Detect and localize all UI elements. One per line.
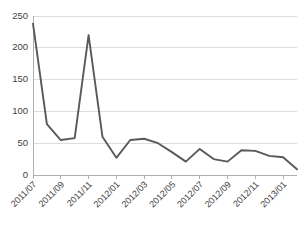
y-axis-tick-label: 150 — [12, 73, 28, 84]
y-axis-tick-label: 0 — [23, 169, 28, 180]
line-chart: 0501001502002502011/072011/092011/112012… — [0, 0, 305, 225]
data-series-line — [33, 24, 297, 170]
x-axis-tick-label: 2012/05 — [147, 179, 177, 209]
y-axis-tick-label: 200 — [12, 41, 28, 52]
x-axis-tick-label: 2012/11 — [231, 179, 261, 209]
x-axis-tick-label: 2012/07 — [175, 179, 205, 209]
x-axis-tick-label: 2011/11 — [65, 179, 94, 208]
x-axis-tick-label: 2012/09 — [203, 179, 233, 209]
y-axis-tick-label: 50 — [17, 137, 28, 148]
x-axis-tick-label: 2011/09 — [37, 179, 67, 209]
y-axis-tick-label: 100 — [12, 105, 28, 116]
y-axis-tick-label: 250 — [12, 10, 28, 21]
chart-canvas: 0501001502002502011/072011/092011/112012… — [0, 0, 305, 225]
x-axis-tick-label: 2011/07 — [9, 179, 39, 209]
x-axis-tick-label: 2012/01 — [92, 179, 122, 209]
x-axis-tick-label: 2012/03 — [119, 179, 149, 209]
x-axis-tick-label: 2013/01 — [258, 179, 288, 209]
